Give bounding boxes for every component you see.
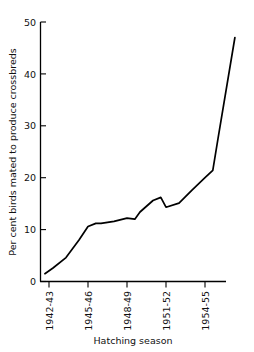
x-axis-title: Hatching season xyxy=(93,335,172,346)
y-tick-label-30: 30 xyxy=(24,120,36,131)
y-tick-label-10: 10 xyxy=(24,224,36,235)
x-tick-label-1951-52: 1951-52 xyxy=(161,291,172,331)
y-axis-tick-labels: 0 10 20 30 40 50 xyxy=(24,17,36,287)
y-tick-label-20: 20 xyxy=(24,172,36,183)
x-axis-tick-labels: 1942-43 1945-46 1948-49 1951-52 1954-55 xyxy=(44,291,211,331)
chart-figure: 0 10 20 30 40 50 1942-43 1945-46 1948-49… xyxy=(0,0,254,352)
y-axis-ticks xyxy=(41,22,47,282)
y-axis-title: Per cent birds mated to produce crossbre… xyxy=(7,48,18,256)
x-axis-ticks xyxy=(49,282,205,288)
x-tick-label-1942-43: 1942-43 xyxy=(44,291,55,331)
y-tick-label-0: 0 xyxy=(30,276,36,287)
x-tick-label-1954-55: 1954-55 xyxy=(200,291,211,331)
y-tick-label-40: 40 xyxy=(24,69,36,80)
axes xyxy=(40,22,226,282)
x-tick-label-1948-49: 1948-49 xyxy=(122,291,133,331)
y-tick-label-50: 50 xyxy=(24,17,36,28)
line-chart-svg: 0 10 20 30 40 50 1942-43 1945-46 1948-49… xyxy=(0,0,254,352)
data-series-line xyxy=(45,38,235,274)
x-tick-label-1945-46: 1945-46 xyxy=(83,291,94,331)
